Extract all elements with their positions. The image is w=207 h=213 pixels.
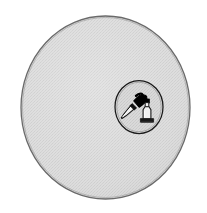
gray-disc[interactable] (21, 16, 190, 199)
image-canvas: Gray textured disc Eyedropper tool badge… (0, 0, 207, 213)
eyedropper-badge[interactable] (115, 81, 163, 134)
illustration-svg (0, 0, 207, 213)
disc-shading (21, 16, 190, 199)
bottle-base (140, 119, 153, 123)
